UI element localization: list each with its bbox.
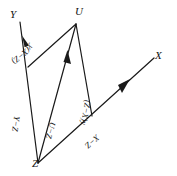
- vertex-label-X: X: [155, 50, 162, 61]
- arrowhead-z-to-u: [64, 50, 72, 64]
- vertex-label-Y: Y: [10, 9, 16, 20]
- vertex-label-U: U: [75, 6, 83, 17]
- edge-z-to-u: [38, 24, 76, 163]
- edge-z-to-x: [38, 58, 154, 163]
- segment-label-y-minus-z: Y−Z: [11, 116, 22, 132]
- vertex-label-Z: Z: [32, 158, 38, 169]
- arrowhead-z-to-x: [118, 79, 130, 93]
